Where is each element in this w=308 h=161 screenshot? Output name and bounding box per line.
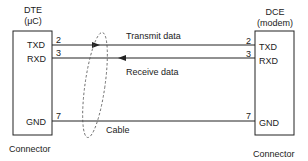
dce-pin-rxd: RXD bbox=[259, 56, 278, 66]
dce-pin-txd: TXD bbox=[259, 42, 277, 52]
receive-arrow-icon bbox=[118, 55, 126, 61]
cable-label: Cable bbox=[106, 125, 130, 135]
dce-title: DCE bbox=[265, 7, 284, 17]
dte-title: DTE bbox=[24, 5, 42, 15]
dce-pin-gnd: GND bbox=[259, 118, 279, 128]
dte-pin-number-7: 7 bbox=[56, 111, 61, 121]
dce-connector-caption: Connector bbox=[253, 149, 295, 159]
dte-pin-rxd: RXD bbox=[27, 54, 46, 64]
receive-data-label: Receive data bbox=[126, 67, 179, 77]
transmit-arrow-icon bbox=[92, 42, 100, 48]
dte-pin-number-2: 2 bbox=[56, 35, 61, 45]
dte-pin-gnd: GND bbox=[26, 117, 46, 127]
dte-pin-number-3: 3 bbox=[56, 48, 61, 58]
transmit-data-label: Transmit data bbox=[126, 31, 181, 41]
cable-bundle-icon bbox=[78, 31, 113, 139]
dce-pin-number-3: 3 bbox=[246, 49, 251, 59]
dte-subtitle: (μC) bbox=[24, 16, 42, 26]
dce-pin-number-7: 7 bbox=[246, 111, 251, 121]
dce-subtitle: (modem) bbox=[257, 18, 293, 28]
dce-pin-number-2: 2 bbox=[246, 36, 251, 46]
dte-pin-txd: TXD bbox=[27, 40, 45, 50]
dte-connector-caption: Connector bbox=[9, 144, 51, 154]
